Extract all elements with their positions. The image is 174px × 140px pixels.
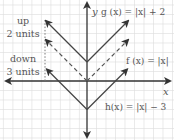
down-annotation: 3 units [6, 66, 39, 77]
h-function-label: h(x) = |x| − 3 [105, 102, 167, 113]
g-function-label: g (x) = |x| + 2 [101, 7, 165, 18]
up-annotation: 2 units [6, 28, 39, 39]
f-function-label: f (x) = |x| [126, 56, 169, 67]
up-annotation: up [17, 15, 29, 26]
y-axis-label: y [91, 6, 98, 17]
x-axis-label: x [163, 86, 169, 97]
down-annotation: down [10, 53, 36, 64]
absolute-value-transformations-graph: y x g (x) = |x| + 2 f (x) = |x| h(x) = |… [0, 0, 174, 140]
